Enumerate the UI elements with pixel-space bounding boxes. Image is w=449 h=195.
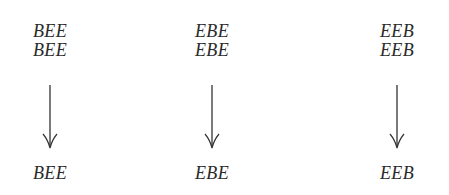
output-label: EEB	[347, 164, 447, 182]
down-arrow-icon	[38, 84, 62, 150]
down-arrow-icon	[200, 84, 224, 150]
input-label-second: EEB	[347, 41, 447, 59]
column-bee: BEE BEE BEE	[0, 0, 100, 195]
input-label-top: EEB	[347, 22, 447, 40]
input-label-top: BEE	[0, 22, 100, 40]
column-ebe: EBE EBE EBE	[162, 0, 262, 195]
output-label: BEE	[0, 164, 100, 182]
down-arrow-icon	[385, 84, 409, 150]
input-label-second: BEE	[0, 41, 100, 59]
output-label: EBE	[162, 164, 262, 182]
input-label-second: EBE	[162, 41, 262, 59]
input-label-top: EBE	[162, 22, 262, 40]
column-eeb: EEB EEB EEB	[347, 0, 447, 195]
